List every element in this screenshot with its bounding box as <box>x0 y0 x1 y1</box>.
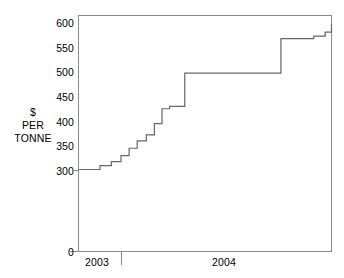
y-tick-label-350: 350 <box>46 140 74 152</box>
y-tick-label-450: 450 <box>46 91 74 103</box>
y-tick-label-550: 550 <box>46 42 74 54</box>
y-tick-label-500: 500 <box>46 66 74 78</box>
x-tick-label-2003: 2003 <box>74 256 120 268</box>
price-step-line <box>79 24 332 170</box>
y-tick-label-0: 0 <box>46 246 74 258</box>
y-tick-marks <box>74 171 78 252</box>
x-tick-label-2004: 2004 <box>201 256 247 268</box>
y-tick-label-300: 300 <box>46 165 74 177</box>
y-tick-label-400: 400 <box>46 116 74 128</box>
y-tick-label-600: 600 <box>46 17 74 29</box>
step-chart: $ PER TONNE 600 550 500 450 400 350 300 … <box>0 0 344 278</box>
plot-frame <box>70 15 332 252</box>
